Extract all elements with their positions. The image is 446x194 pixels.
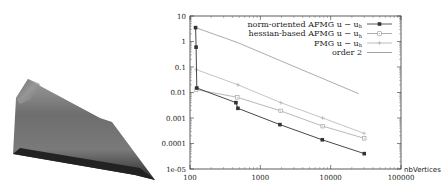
filled-square-marker	[320, 138, 324, 142]
filled-square-marker	[378, 22, 382, 26]
convergence-chart: 1010.10.010.0010.00011e-0510010001000010…	[0, 0, 446, 194]
legend-label-0: norm-oriented AFMG u − uh	[247, 20, 362, 30]
filled-square-marker	[236, 107, 240, 111]
open-square-dot	[237, 97, 238, 98]
y-tick-label: 0.0001	[162, 140, 187, 148]
y-tick-label: 10	[177, 13, 186, 21]
filled-square-marker	[194, 26, 198, 30]
x-axis-title: nbVertices	[404, 166, 441, 174]
y-tick-label: 0.001	[166, 115, 186, 123]
x-tick-label: 100	[183, 174, 196, 182]
y-tick-label: 0.01	[170, 89, 186, 97]
open-square-dot	[322, 126, 323, 127]
open-square-dot	[364, 138, 365, 139]
x-tick-label: 100000	[388, 174, 415, 182]
filled-square-marker	[195, 86, 199, 90]
filled-square-marker	[362, 152, 366, 156]
open-square-dot	[280, 110, 281, 111]
legend-label-1: hessian-based AFMG u − uh	[249, 29, 363, 39]
filled-square-marker	[234, 101, 238, 105]
x-tick-label: 1000	[251, 174, 269, 182]
legend: norm-oriented AFMG u − uhhessian-based A…	[247, 20, 392, 58]
y-tick-label: 1e-05	[166, 166, 186, 174]
open-square-dot	[379, 33, 380, 34]
x-tick-label: 10000	[320, 174, 342, 182]
y-tick-label: 1	[182, 38, 186, 46]
filled-square-marker	[194, 45, 198, 49]
series-1	[194, 88, 366, 140]
plot-frame	[190, 16, 401, 169]
legend-label-3: order 2	[332, 48, 362, 57]
filled-square-marker	[278, 123, 282, 127]
legend-label-2: FMG u − uh	[314, 39, 363, 49]
y-tick-label: 0.1	[175, 64, 186, 72]
